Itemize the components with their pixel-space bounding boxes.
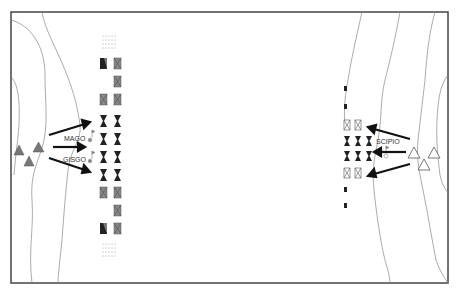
battle-map: MAGO GISGO SCIPIO (0, 0, 460, 294)
label-scipio: SCIPIO (376, 138, 400, 145)
label-gisgo: GISGO (63, 156, 87, 163)
label-mago: MAGO (64, 135, 86, 142)
